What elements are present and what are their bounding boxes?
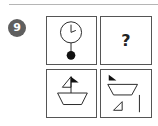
top-divider [9,4,158,5]
sailboat-icon [47,70,96,117]
sailboat-parts-icon [101,70,151,117]
question-number-badge: 9 [8,19,26,37]
cell-bottom-left [46,69,97,118]
cell-bottom-right [100,69,152,118]
pendulum-clock-icon [47,17,96,64]
cell-top-left [46,16,97,65]
cell-top-right: ? [100,16,152,65]
question-mark: ? [101,17,151,64]
